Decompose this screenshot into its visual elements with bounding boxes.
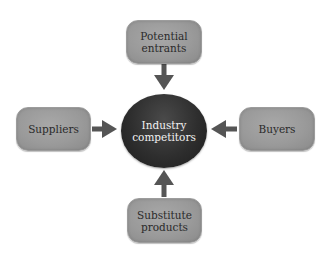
five-forces-diagram: Potential entrants Suppliers Buyers Subs… [0, 0, 330, 253]
node-buyers: Buyers [239, 107, 315, 151]
node-label: Suppliers [28, 123, 79, 135]
node-suppliers: Suppliers [16, 107, 91, 151]
arrow-right-icon [92, 120, 117, 138]
node-label: Substitute products [137, 209, 192, 233]
node-substitute-products: Substitute products [127, 198, 202, 243]
center-label: Industry competitors [132, 119, 196, 143]
node-potential-entrants: Potential entrants [126, 20, 202, 64]
arrow-down-icon [154, 64, 174, 90]
arrow-left-icon [211, 120, 237, 138]
arrow-up-icon [154, 170, 174, 197]
node-label: Potential entrants [140, 30, 187, 54]
node-industry-competitors: Industry competitors [121, 94, 207, 168]
node-label: Buyers [258, 123, 295, 135]
